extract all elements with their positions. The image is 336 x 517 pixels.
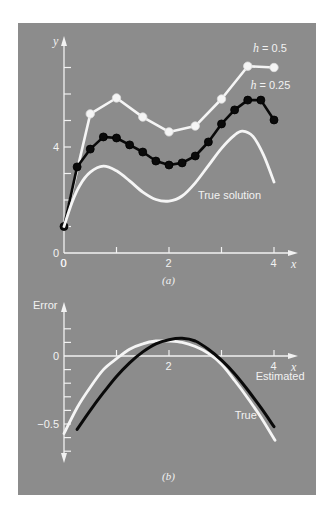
chart-b-caption: (b)	[162, 470, 175, 483]
series-label: True solution	[198, 189, 261, 201]
chart-b-series: TrueEstimated	[64, 338, 305, 440]
series-label: h = 0.5	[253, 41, 287, 55]
series-label: Estimated	[256, 370, 305, 382]
data-point-marker	[178, 159, 186, 167]
chart-a-y-label: y	[52, 34, 59, 48]
data-point-marker	[231, 106, 239, 114]
data-point-marker	[139, 113, 147, 121]
data-point-marker	[112, 94, 120, 102]
chart-b-x-label: x	[290, 360, 297, 374]
chart-b-y-label: Error	[33, 299, 58, 311]
chart-a-x-arrow-icon	[288, 250, 298, 256]
data-point-marker	[218, 120, 226, 128]
data-point-marker	[244, 62, 252, 70]
y-tick-label: −0.5	[37, 418, 59, 430]
chart-a-y-arrow-icon	[61, 36, 67, 46]
data-point-marker	[165, 161, 173, 169]
data-point-marker	[244, 96, 252, 104]
data-point-marker	[204, 138, 212, 146]
data-point-marker	[191, 122, 199, 130]
chart-a-ticks: 024004	[53, 68, 277, 270]
data-point-marker	[86, 110, 94, 118]
data-point-marker	[113, 134, 121, 142]
series-label: h = 0.25	[250, 78, 290, 92]
chart-b-y-arrow-down-icon	[61, 453, 67, 463]
data-point-marker	[152, 157, 160, 165]
chart-b-axes	[61, 302, 298, 463]
data-point-marker	[99, 133, 107, 141]
chart-b-x-arrow-icon	[288, 353, 298, 359]
data-point-marker	[165, 128, 173, 136]
data-point-marker	[86, 145, 94, 153]
data-point-marker	[217, 95, 225, 103]
chart-a: 024004 h = 0.5h = 0.25True solution y x …	[52, 34, 298, 287]
chart-b: 240−0.5 TrueEstimated Error x (b)	[33, 299, 305, 483]
chart-a-series: h = 0.5h = 0.25True solution	[60, 41, 290, 231]
x-tick-label: 2	[166, 360, 172, 372]
data-point-marker	[270, 116, 278, 124]
x-tick-label: 2	[166, 257, 172, 269]
figure: 024004 h = 0.5h = 0.25True solution y x …	[0, 0, 336, 517]
chart-a-x-label: x	[290, 257, 297, 271]
data-point-marker	[257, 96, 265, 104]
chart-a-axes	[61, 36, 298, 256]
x-tick-label: 0	[61, 257, 67, 269]
data-point-marker	[270, 63, 278, 71]
data-point-marker	[139, 148, 147, 156]
y-tick-label: 4	[53, 141, 59, 153]
chart-a-caption: (a)	[162, 274, 175, 287]
data-point-marker	[191, 152, 199, 160]
chart-b-y-arrow-up-icon	[61, 302, 67, 312]
x-tick-label: 4	[271, 257, 277, 269]
series-label: True	[235, 409, 257, 421]
y-tick-label: 0	[53, 350, 59, 362]
data-point-marker	[126, 141, 134, 149]
y-tick-label: 0	[53, 247, 59, 259]
data-point-marker	[73, 163, 81, 171]
